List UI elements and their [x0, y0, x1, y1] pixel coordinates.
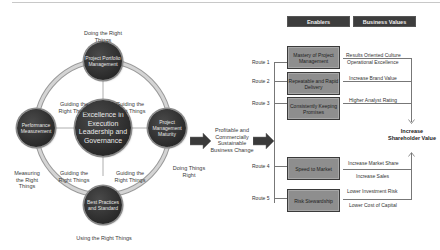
label-right: Doing Things Right — [172, 165, 206, 178]
node-bottom: Best Practices and Standard — [84, 186, 122, 224]
node-right-label: Project Management Maturity — [148, 119, 186, 137]
label-bottom: Using the Right Things — [72, 235, 136, 242]
value-5b: Lower Cost of Capital — [349, 202, 397, 208]
label-top: Doing the Right Things — [80, 30, 126, 43]
value-4b: Increase Sales — [356, 173, 389, 179]
route-connector-2 — [274, 81, 287, 82]
enabler-box-4: Speed to Market — [287, 157, 340, 180]
route-label-2: Route 2 — [252, 78, 270, 84]
route-label-1: Route 1 — [252, 59, 270, 65]
header-enablers: Enablers — [287, 16, 350, 27]
route-connector-5 — [274, 198, 287, 199]
enabler-box-3: Consistently Keeping Promises — [287, 97, 340, 120]
guiding-label-br: Guiding the Right Things — [114, 170, 146, 183]
outcome-label: Increase Shareholder Value — [385, 128, 439, 142]
value-line-4 — [343, 169, 411, 170]
node-top: Project Portfolio Management — [84, 42, 122, 80]
node-bottom-label: Best Practices and Standard — [84, 199, 122, 211]
route-trunk — [274, 62, 275, 203]
lower-collector — [411, 153, 412, 200]
value-line-1 — [343, 58, 411, 59]
guiding-label-bl: Guiding the Right Things — [58, 170, 90, 183]
value-1b: Operational Excellence — [347, 59, 398, 65]
route-label-4: Route 4 — [252, 163, 270, 169]
guiding-label-tr: Guiding the Right Things — [114, 101, 146, 114]
value-line-5 — [343, 199, 411, 200]
value-line-2 — [343, 81, 411, 82]
arrow-down-icon — [408, 119, 415, 125]
guiding-label-tl: Guiding the Right Things — [58, 101, 90, 114]
middle-text: Profitable and Commercially Sustainable … — [210, 127, 254, 153]
value-line-3 — [343, 103, 411, 104]
node-left-label: Performance Measurement — [17, 122, 55, 134]
value-4a: Increase Market Share — [348, 160, 399, 166]
upper-collector — [411, 58, 412, 122]
route-connector-1 — [274, 62, 287, 63]
node-left: Performance Measurement — [17, 109, 55, 147]
enabler-box-5: Risk Stewardship — [287, 189, 340, 212]
header-business-values: Business Values — [353, 16, 416, 27]
arrow-right-icon-2 — [253, 133, 275, 149]
arrow-right-icon — [190, 133, 212, 149]
node-right: Project Management Maturity — [148, 109, 186, 147]
route-label-5: Route 5 — [252, 195, 270, 201]
route-connector-3 — [274, 103, 287, 104]
label-left: Measuring the Right Things — [10, 170, 44, 190]
route-label-3: Route 3 — [252, 100, 270, 106]
center-node-label: Excellence in Execution Leadership and G… — [75, 111, 131, 145]
enabler-box-1: Mastery of Project Management — [287, 46, 340, 69]
value-5a: Lower Investment Risk — [347, 188, 398, 194]
node-top-label: Project Portfolio Management — [84, 55, 122, 67]
route-connector-4 — [274, 166, 287, 167]
enabler-box-2: Repeatable and Rapid Delivery — [287, 72, 340, 95]
